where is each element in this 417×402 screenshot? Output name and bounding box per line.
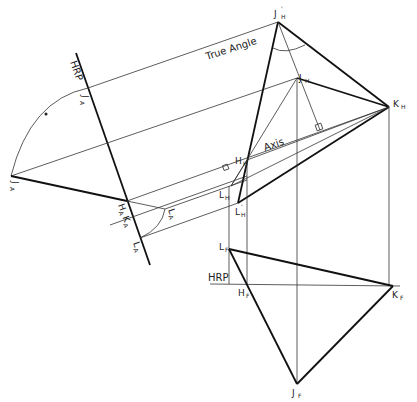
right-angle-mark-2 [222,164,228,170]
edge-jh-kh [297,78,389,107]
label-j-a: JA [9,180,20,192]
label-j-a-prime: JA [79,94,90,106]
svg-text:H: H [401,103,406,110]
svg-text:L: L [235,207,240,217]
label-h-f: HF [238,288,250,299]
svg-text:A: A [9,187,16,192]
hrp-front-line [210,284,400,286]
svg-text:K: K [393,99,400,109]
drawing-canvas: HRP True Angle Axis HRP JH' JH KH HH LH … [0,0,417,402]
hrp-front-label: HRP [208,272,229,283]
edge-lf-kf [229,249,393,286]
edge-lf-jf [229,249,297,384]
svg-text:J: J [273,9,277,19]
projector-l-prime [140,203,238,238]
svg-text:A: A [79,101,86,106]
label-j-h: JH [298,73,310,84]
svg-text:H: H [281,13,286,20]
svg-text:H: H [241,211,246,218]
label-l-f: LF [219,242,229,253]
hrp-aux-label: HRP [68,59,85,82]
svg-text:A: A [132,247,140,254]
hrp-auxiliary-line [76,53,150,265]
label-j-h-prime: JH' [273,5,286,20]
projector-j-prime [88,22,278,88]
projector-hk [127,107,389,201]
svg-text:J: J [291,388,295,398]
label-l-a-prime: LA [130,240,144,254]
label-j-f: JF [291,388,302,399]
edge-kf-jf [297,286,393,384]
svg-text:A: A [122,222,130,229]
svg-text:H: H [235,156,242,166]
svg-text:F: F [298,392,302,399]
label-l-a: LA [165,207,179,221]
edge-ja-hk [11,176,127,201]
svg-text:F: F [225,246,229,253]
label-h-a-k-a: HAKA [115,202,134,229]
svg-text:F: F [246,292,250,299]
svg-text:': ' [241,203,243,210]
svg-text:J: J [298,73,302,83]
arc-arrow-dot [45,113,48,116]
svg-text:H: H [305,77,310,84]
svg-text:F: F [400,294,404,301]
edge-hk-la [127,201,165,209]
svg-text:K: K [392,290,399,300]
label-l-h: LH [219,190,230,201]
label-h-h: HH [235,156,248,167]
label-k-f: KF [392,290,404,301]
label-k-h: KH [393,99,406,110]
svg-text:J: J [10,180,20,184]
svg-text:L: L [219,190,224,200]
svg-text:J: J [80,94,90,98]
label-l-h-prime: LH' [235,203,246,218]
svg-text:H: H [225,194,230,201]
true-angle-label: True Angle [203,35,258,62]
svg-text:': ' [281,5,283,12]
svg-text:L: L [219,242,224,252]
svg-text:A: A [167,214,175,221]
svg-text:H: H [238,288,245,298]
svg-text:H: H [243,160,248,167]
